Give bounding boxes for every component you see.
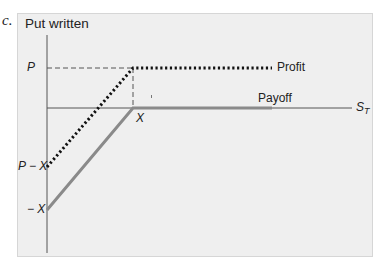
payoff-line bbox=[47, 108, 272, 210]
y-tick-minus-x: − X bbox=[27, 202, 45, 216]
y-tick-p-minus-x: P − X bbox=[18, 159, 47, 173]
payoff-chart bbox=[0, 0, 376, 277]
x-tick-x: X bbox=[136, 111, 144, 125]
x-axis-label-subscript: T bbox=[364, 106, 370, 116]
y-tick-p: P bbox=[27, 60, 35, 74]
chart-title: Put written bbox=[25, 16, 89, 31]
x-axis-label: ST bbox=[356, 100, 370, 116]
profit-label: Profit bbox=[277, 60, 305, 74]
profit-line bbox=[47, 68, 272, 167]
x-axis-label-s: S bbox=[356, 100, 364, 114]
payoff-label: Payoff bbox=[258, 91, 292, 105]
speck bbox=[151, 95, 152, 98]
